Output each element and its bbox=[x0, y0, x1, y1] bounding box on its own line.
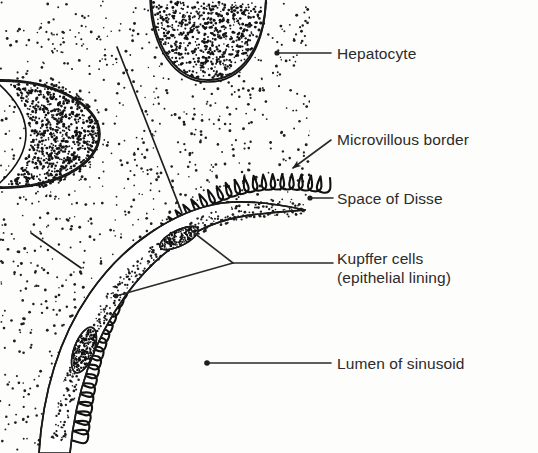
label-microvillous-border: Microvillous border bbox=[337, 130, 469, 149]
hepatocyte-nucleus-left bbox=[0, 79, 100, 188]
leader-lumen-of-sinusoid bbox=[204, 360, 331, 366]
cytoplasm-pointer-left bbox=[31, 233, 81, 268]
label-space-of-disse: Space of Disse bbox=[337, 189, 443, 208]
leader-microvillous-border bbox=[293, 140, 331, 168]
leader-hepatocyte bbox=[274, 50, 331, 55]
label-kupffer-cells: Kupffer cells bbox=[337, 249, 423, 268]
nucleus-pointer-upper bbox=[117, 47, 182, 213]
figure-drawing bbox=[0, 0, 538, 453]
label-lumen-of-sinusoid: Lumen of sinusoid bbox=[337, 354, 465, 373]
liver-sinusoid-figure: Hepatocyte Microvillous border Space of … bbox=[0, 0, 538, 453]
hepatocyte-nucleus-top bbox=[150, 0, 266, 82]
label-kupffer-cells-sub: (epithelial lining) bbox=[337, 268, 451, 287]
label-hepatocyte: Hepatocyte bbox=[337, 44, 416, 63]
leader-space-of-disse bbox=[307, 195, 333, 200]
